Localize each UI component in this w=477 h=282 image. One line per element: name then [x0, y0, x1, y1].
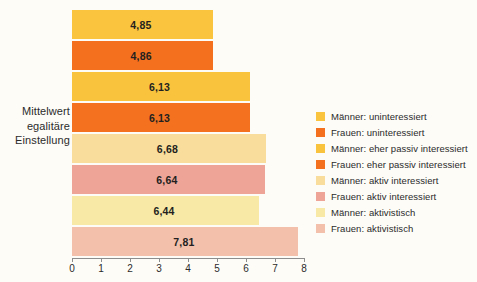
x-axis-tick: [246, 258, 247, 262]
y-axis-label-line-1: Mittelwert: [2, 104, 70, 119]
legend-item: Männer: eher passiv interessiert: [316, 140, 474, 156]
x-axis-tick: [72, 258, 73, 262]
legend-swatch-icon: [316, 224, 325, 233]
bar: 6,68: [72, 134, 266, 163]
y-axis-label: Mittelwert egalitäre Einstellung: [2, 104, 70, 148]
bar-value-label: 6,68: [157, 143, 178, 155]
legend-swatch-icon: [316, 192, 325, 201]
legend-item-label: Männer: uninteressiert: [331, 111, 427, 122]
x-axis-tick-label: 0: [62, 263, 82, 274]
bar: 6,13: [72, 103, 250, 132]
x-axis-tick-label: 1: [91, 263, 111, 274]
legend-swatch-icon: [316, 128, 325, 137]
chart-legend: Männer: uninteressiertFrauen: uninteress…: [316, 108, 474, 236]
legend-swatch-icon: [316, 112, 325, 121]
bar-value-label: 6,64: [156, 174, 177, 186]
legend-item: Frauen: eher passiv interessiert: [316, 156, 474, 172]
legend-item-label: Frauen: uninteressiert: [331, 127, 425, 138]
legend-item-label: Männer: eher passiv interessiert: [331, 143, 468, 154]
x-axis-tick-label: 3: [149, 263, 169, 274]
x-axis-tick: [188, 258, 189, 262]
bar-value-label: 6,13: [149, 81, 170, 93]
x-axis-tick-label: 8: [294, 263, 314, 274]
x-axis-tick: [304, 258, 305, 262]
bar: 6,44: [72, 196, 259, 225]
x-axis-tick-label: 2: [120, 263, 140, 274]
bar-value-label: 6,44: [153, 205, 174, 217]
bar: 4,85: [72, 10, 213, 39]
y-axis-label-line-3: Einstellung: [2, 133, 70, 148]
bar: 6,64: [72, 165, 265, 194]
x-axis-tick-label: 4: [178, 263, 198, 274]
legend-item-label: Frauen: aktiv interessiert: [331, 191, 436, 202]
legend-item: Frauen: uninteressiert: [316, 124, 474, 140]
x-axis: 012345678: [72, 258, 304, 280]
bar: 6,13: [72, 72, 250, 101]
y-axis-label-line-2: egalitäre: [2, 119, 70, 134]
legend-item-label: Männer: aktivistisch: [331, 207, 415, 218]
legend-item-label: Frauen: aktivistisch: [331, 223, 413, 234]
legend-item: Männer: aktivistisch: [316, 204, 474, 220]
x-axis-tick: [101, 258, 102, 262]
x-axis-tick-label: 6: [236, 263, 256, 274]
x-axis-tick-label: 5: [207, 263, 227, 274]
legend-item: Männer: uninteressiert: [316, 108, 474, 124]
x-axis-tick: [217, 258, 218, 262]
x-axis-tick: [159, 258, 160, 262]
bar: 4,86: [72, 41, 213, 70]
legend-item: Frauen: aktiv interessiert: [316, 188, 474, 204]
legend-item: Frauen: aktivistisch: [316, 220, 474, 236]
chart-figure: Mittelwert egalitäre Einstellung 4,854,8…: [0, 0, 477, 282]
legend-item-label: Frauen: eher passiv interessiert: [331, 159, 466, 170]
plot-area: 4,854,866,136,136,686,646,447,81: [72, 10, 304, 258]
legend-swatch-icon: [316, 208, 325, 217]
legend-item: Männer: aktiv interessiert: [316, 172, 474, 188]
legend-swatch-icon: [316, 144, 325, 153]
legend-swatch-icon: [316, 176, 325, 185]
x-axis-tick: [275, 258, 276, 262]
bar-value-label: 7,81: [173, 236, 194, 248]
bar: 7,81: [72, 227, 298, 256]
legend-swatch-icon: [316, 160, 325, 169]
x-axis-tick: [130, 258, 131, 262]
bar-value-label: 6,13: [149, 112, 170, 124]
legend-item-label: Männer: aktiv interessiert: [331, 175, 438, 186]
bar-value-label: 4,86: [130, 50, 151, 62]
x-axis-tick-label: 7: [265, 263, 285, 274]
bar-value-label: 4,85: [130, 19, 151, 31]
